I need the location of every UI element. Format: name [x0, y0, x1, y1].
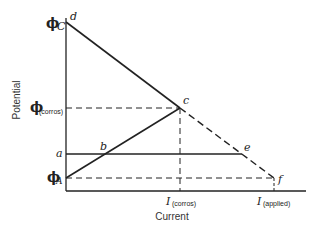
point-f-label: f — [277, 173, 284, 186]
polarization-diagram: ϕ C ϕ (corros) a ϕ A d c b e f I (corros… — [0, 0, 317, 233]
i-corros-label: I — [165, 195, 171, 208]
phi-a-sub: A — [55, 176, 63, 186]
cathodic-extension — [180, 108, 274, 178]
diagram-canvas: ϕ C ϕ (corros) a ϕ A d c b e f I (corros… — [0, 0, 317, 233]
i-applied-label: I — [256, 195, 262, 208]
point-b-label: b — [100, 140, 107, 153]
i-applied-sub: (applied) — [263, 200, 290, 208]
point-c-label: c — [183, 94, 189, 107]
anodic-line — [66, 108, 180, 178]
phi-corros-sub: (corros) — [39, 108, 63, 116]
point-d-label: d — [70, 10, 77, 23]
phi-c-sub: C — [57, 20, 66, 33]
i-corros-sub: (corros) — [172, 200, 196, 208]
a-label: a — [56, 147, 63, 160]
x-axis-title: Current — [155, 211, 189, 222]
y-axis-title: Potential — [11, 81, 22, 120]
point-e-label: e — [244, 141, 251, 154]
cathodic-line — [66, 22, 180, 108]
